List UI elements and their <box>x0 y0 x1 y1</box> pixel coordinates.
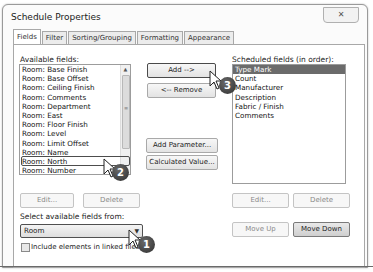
list-item[interactable]: Room: Base Finish <box>20 65 130 74</box>
grip-icon: ≡ <box>124 107 128 110</box>
available-edit-button[interactable]: Edit... <box>20 193 74 208</box>
calculated-value-button[interactable]: Calculated Value... <box>146 155 218 170</box>
scheduled-delete-button[interactable]: Delete <box>293 193 350 208</box>
scroll-up-arrow-icon[interactable]: ▲ <box>122 66 129 73</box>
list-item[interactable]: Room: Ceiling Finish <box>20 83 130 92</box>
select-from-label: Select available fields from: <box>20 212 124 221</box>
dialog-title: Schedule Properties <box>11 12 101 22</box>
list-item[interactable]: Room: Limit Offset <box>20 139 130 148</box>
torn-edge-divider <box>0 266 373 267</box>
remove-button[interactable]: <-- Remove <box>147 83 216 98</box>
select-from-combo[interactable]: Room ▼ <box>20 224 143 238</box>
close-icon: ✕ <box>338 10 345 19</box>
list-item[interactable]: Room: Base Offset <box>20 74 130 83</box>
tab-appearance[interactable]: Appearance <box>184 31 234 44</box>
tab-formatting[interactable]: Formatting <box>137 31 183 44</box>
linked-files-checkbox[interactable] <box>21 243 30 252</box>
list-item[interactable]: Description <box>233 93 345 102</box>
list-item[interactable]: Comments <box>233 111 345 120</box>
list-item[interactable]: Room: Department <box>20 102 130 111</box>
move-down-button[interactable]: Move Down <box>293 222 350 237</box>
tab-fields[interactable]: Fields <box>13 29 41 44</box>
list-item[interactable]: Room: East <box>20 111 130 120</box>
list-item[interactable]: Room: Level <box>20 129 130 138</box>
select-from-value: Room <box>24 226 44 235</box>
add-parameter-button[interactable]: Add Parameter... <box>146 138 218 153</box>
list-item[interactable]: Room: Comments <box>20 93 130 102</box>
linked-files-label: Include elements in linked files <box>31 243 139 251</box>
scheduled-fields-list[interactable]: Type Mark Count Manufacturer Description… <box>232 64 346 184</box>
available-delete-button[interactable]: Delete <box>83 193 140 208</box>
callout-badge-2: 2 <box>112 164 129 181</box>
available-fields-label: Available fields: <box>20 55 79 64</box>
scheduled-edit-button[interactable]: Edit... <box>232 193 289 208</box>
tab-filter[interactable]: Filter <box>42 31 67 44</box>
list-item-selected[interactable]: Type Mark <box>233 65 345 74</box>
list-item[interactable]: Count <box>233 74 345 83</box>
list-item[interactable]: Room: Floor Finish <box>20 120 130 129</box>
add-button[interactable]: Add --> <box>147 63 216 78</box>
list-item[interactable]: Manufacturer <box>233 83 345 92</box>
tab-bar: Fields Filter Sorting/Grouping Formattin… <box>13 31 235 45</box>
close-button[interactable]: ✕ <box>323 7 359 23</box>
list-item[interactable]: Fabric / Finish <box>233 102 345 111</box>
move-up-button[interactable]: Move Up <box>232 222 289 237</box>
scheduled-fields-label: Scheduled fields (in order): <box>232 55 334 64</box>
callout-badge-1: 1 <box>138 236 155 253</box>
tab-sorting-grouping[interactable]: Sorting/Grouping <box>68 31 136 44</box>
callout-badge-3: 3 <box>219 77 236 94</box>
scroll-thumb[interactable]: ≡ <box>122 75 130 149</box>
